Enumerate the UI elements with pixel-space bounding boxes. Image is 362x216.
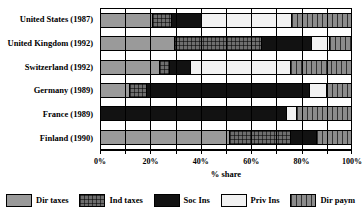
x-axis-tick-label: 60% bbox=[243, 157, 259, 166]
category-label-united-kingdom: United Kingdom (1992) bbox=[0, 36, 96, 51]
x-axis-tick bbox=[100, 150, 101, 154]
legend-label-soc-ins: Soc Ins bbox=[184, 195, 210, 205]
bar-segment bbox=[152, 14, 171, 27]
x-axis-tick bbox=[327, 150, 328, 154]
bar-segment bbox=[190, 61, 290, 74]
bar-segment bbox=[201, 14, 291, 27]
legend-item-dir-paym: Dir paym bbox=[290, 194, 355, 207]
x-axis-tick-label: 20% bbox=[142, 157, 158, 166]
bar-segment bbox=[261, 37, 311, 50]
x-axis-tick bbox=[226, 150, 227, 154]
x-axis-tick bbox=[176, 150, 177, 154]
x-axis bbox=[100, 150, 352, 156]
bar-segment bbox=[146, 84, 309, 97]
bar-row bbox=[101, 36, 351, 51]
legend-item-priv-ins: Priv Ins bbox=[221, 194, 280, 207]
category-axis-labels: United States (1987) United Kingdom (199… bbox=[0, 8, 96, 150]
legend-label-ind-taxes: Ind taxes bbox=[109, 195, 142, 205]
bar-row bbox=[101, 83, 351, 98]
bar-segment bbox=[101, 131, 229, 144]
bar-segment bbox=[101, 61, 159, 74]
bar-row bbox=[101, 106, 351, 121]
bar-segment bbox=[169, 61, 190, 74]
bar-segment bbox=[159, 61, 169, 74]
bar-segment bbox=[229, 131, 290, 144]
bar-segment bbox=[326, 84, 351, 97]
bar-segment bbox=[290, 131, 316, 144]
bar-segment bbox=[101, 107, 286, 120]
chart-legend: Dir taxes Ind taxes Soc Ins Priv Ins Dir… bbox=[6, 190, 355, 210]
legend-item-ind-taxes: Ind taxes bbox=[79, 194, 142, 207]
legend-swatch-ind-taxes-icon bbox=[79, 194, 105, 207]
x-axis-tick-label: 80% bbox=[294, 157, 310, 166]
category-label-united-states: United States (1987) bbox=[0, 12, 96, 27]
x-axis-tick bbox=[201, 150, 202, 154]
bar-segment bbox=[329, 37, 352, 50]
bar-segment bbox=[311, 37, 329, 50]
legend-label-priv-ins: Priv Ins bbox=[251, 195, 280, 205]
bar-segment bbox=[290, 61, 351, 74]
legend-item-dir-taxes: Dir taxes bbox=[6, 194, 69, 207]
legend-label-dir-paym: Dir paym bbox=[320, 195, 355, 205]
bar-segment bbox=[129, 84, 147, 97]
bar-segment bbox=[101, 84, 129, 97]
bar-segment bbox=[171, 14, 201, 27]
x-axis-tick-label: 0% bbox=[94, 157, 106, 166]
bar-segment bbox=[291, 14, 351, 27]
bar-segment bbox=[101, 14, 152, 27]
legend-item-soc-ins: Soc Ins bbox=[154, 194, 210, 207]
x-axis-tick bbox=[150, 150, 151, 154]
x-axis-tick bbox=[276, 150, 277, 154]
category-label-france: France (1989) bbox=[0, 107, 96, 122]
legend-label-dir-taxes: Dir taxes bbox=[36, 195, 69, 205]
legend-swatch-soc-ins-icon bbox=[154, 194, 180, 207]
bar-segment bbox=[309, 84, 327, 97]
x-axis-tick-label: 40% bbox=[193, 157, 209, 166]
x-axis-title: % share bbox=[100, 169, 352, 179]
bar-series-container bbox=[101, 9, 351, 149]
bar-row bbox=[101, 60, 351, 75]
x-axis-tick-label: 100% bbox=[342, 157, 362, 166]
category-label-finland: Finland (1990) bbox=[0, 131, 96, 146]
legend-swatch-dir-taxes-icon bbox=[6, 194, 32, 207]
bar-segment bbox=[316, 131, 351, 144]
legend-swatch-priv-ins-icon bbox=[221, 194, 247, 207]
bar-row bbox=[101, 13, 351, 28]
category-label-switzerland: Switzerland (1992) bbox=[0, 60, 96, 75]
legend-swatch-dir-paym-icon bbox=[290, 194, 316, 207]
bar-segment bbox=[296, 107, 351, 120]
x-axis-tick bbox=[351, 150, 352, 154]
plot-area bbox=[100, 8, 352, 150]
bar-segment bbox=[101, 37, 174, 50]
bar-segment bbox=[174, 37, 262, 50]
x-axis-tick bbox=[125, 150, 126, 154]
bar-row bbox=[101, 130, 351, 145]
x-axis-tick bbox=[302, 150, 303, 154]
x-axis-tick bbox=[251, 150, 252, 154]
category-label-germany: Germany (1989) bbox=[0, 83, 96, 98]
bar-segment bbox=[286, 107, 296, 120]
x-axis-tick-labels: 0%20%40%60%80%100% bbox=[100, 157, 352, 169]
